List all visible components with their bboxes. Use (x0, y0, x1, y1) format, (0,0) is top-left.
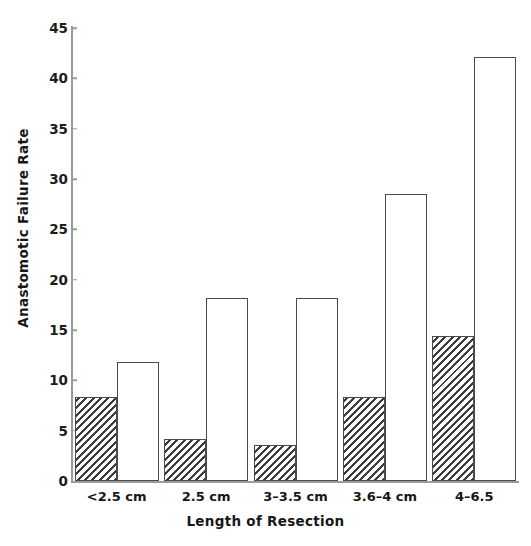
y-axis-tick-mark (73, 329, 77, 331)
y-axis-tick-label: 30 (28, 171, 68, 187)
y-axis-tick-mark (73, 128, 77, 130)
bar (206, 298, 248, 481)
x-axis-tick-label: 3.6–4 cm (353, 489, 417, 504)
y-axis-tick-mark (73, 229, 77, 231)
y-axis-tick-labels: 051015202530354045 (20, 0, 68, 546)
bar (296, 298, 338, 481)
y-axis-tick-mark (73, 27, 77, 29)
x-axis-tick-label: 4–6.5 (455, 489, 494, 504)
bar (75, 397, 117, 481)
bar-chart-figure: Anastomotic Failure Rate 051015202530354… (0, 0, 531, 546)
y-axis-tick-label: 35 (28, 121, 68, 137)
y-axis-line (71, 26, 73, 483)
x-axis-tick-label: 2.5 cm (182, 489, 231, 504)
bar (117, 362, 159, 481)
y-axis-tick-label: 10 (28, 372, 68, 388)
y-axis-tick-label: 40 (28, 70, 68, 86)
bar (385, 194, 427, 481)
y-axis-tick-mark (73, 380, 77, 382)
y-axis-tick-label: 15 (28, 322, 68, 338)
x-axis-title: Length of Resection (0, 513, 531, 529)
y-axis-tick-mark (73, 279, 77, 281)
x-axis-tick-label: 3–3.5 cm (263, 489, 327, 504)
bar (343, 397, 385, 481)
x-axis-line (71, 481, 519, 483)
bar (432, 336, 474, 481)
y-axis-tick-mark (73, 178, 77, 180)
x-axis-tick-label: <2.5 cm (87, 489, 147, 504)
bar (474, 57, 516, 481)
y-axis-tick-label: 25 (28, 221, 68, 237)
y-axis-tick-label: 45 (28, 20, 68, 36)
y-axis-tick-mark (73, 78, 77, 80)
y-axis-tick-label: 5 (28, 423, 68, 439)
bar (164, 439, 206, 481)
bar (254, 445, 296, 481)
y-axis-tick-label: 20 (28, 272, 68, 288)
y-axis-tick-label: 0 (28, 473, 68, 489)
